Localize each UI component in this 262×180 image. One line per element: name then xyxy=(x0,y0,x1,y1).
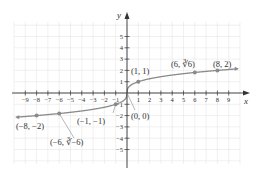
y-tick-label: 1 xyxy=(120,78,123,85)
chart-canvas: xy −9−8−7−6−5−4−3−2−1123456789−5−4−3−2−1… xyxy=(0,0,262,180)
x-tick-label: 5 xyxy=(182,96,185,103)
point-label: (−8, −2) xyxy=(16,121,44,131)
y-tick-label: −4 xyxy=(116,135,124,142)
y-tick-label: −2 xyxy=(116,112,123,119)
point-label: (8, 2) xyxy=(213,59,232,69)
point-label: (6, ∛6) xyxy=(171,59,195,69)
y-axis-label: y xyxy=(116,10,121,20)
x-axis-arrow-icon xyxy=(243,91,250,96)
cube-root-chart: xy −9−8−7−6−5−4−3−2−1123456789−5−4−3−2−1… xyxy=(0,0,262,180)
point-label: (−6, ∛−6) xyxy=(50,137,84,147)
x-tick-label: −3 xyxy=(90,96,97,103)
y-tick-label: 5 xyxy=(120,33,123,40)
x-tick-label: −4 xyxy=(78,96,86,103)
point-label: (1, 1) xyxy=(131,66,150,76)
data-point xyxy=(193,70,197,74)
leader-line xyxy=(59,114,74,138)
x-tick-label: 8 xyxy=(216,96,219,103)
x-tick-label: −7 xyxy=(44,96,52,103)
y-tick-label: −5 xyxy=(116,146,123,153)
x-tick-label: −6 xyxy=(56,96,64,103)
data-point xyxy=(136,80,140,84)
y-tick-label: 2 xyxy=(120,67,123,74)
data-point xyxy=(215,68,219,72)
x-tick-label: 1 xyxy=(137,96,140,103)
x-tick-label: 4 xyxy=(171,96,175,103)
point-label: (0, 0) xyxy=(131,111,150,121)
x-tick-label: 7 xyxy=(204,96,208,103)
y-axis-arrow-icon xyxy=(125,12,130,19)
x-tick-label: −5 xyxy=(67,96,74,103)
x-tick-label: −2 xyxy=(101,96,108,103)
point-label: (−1, −1) xyxy=(77,116,105,126)
x-tick-label: −9 xyxy=(22,96,29,103)
leader-line xyxy=(127,93,135,110)
y-tick-label: −3 xyxy=(116,123,123,130)
x-tick-label: 2 xyxy=(148,96,151,103)
x-tick-label: 6 xyxy=(193,96,197,103)
x-axis-label: x xyxy=(243,96,248,106)
data-point xyxy=(35,114,39,118)
x-tick-label: 9 xyxy=(227,96,230,103)
y-tick-label: 3 xyxy=(120,55,123,62)
x-tick-label: 3 xyxy=(159,96,162,103)
x-tick-label: −8 xyxy=(33,96,40,103)
